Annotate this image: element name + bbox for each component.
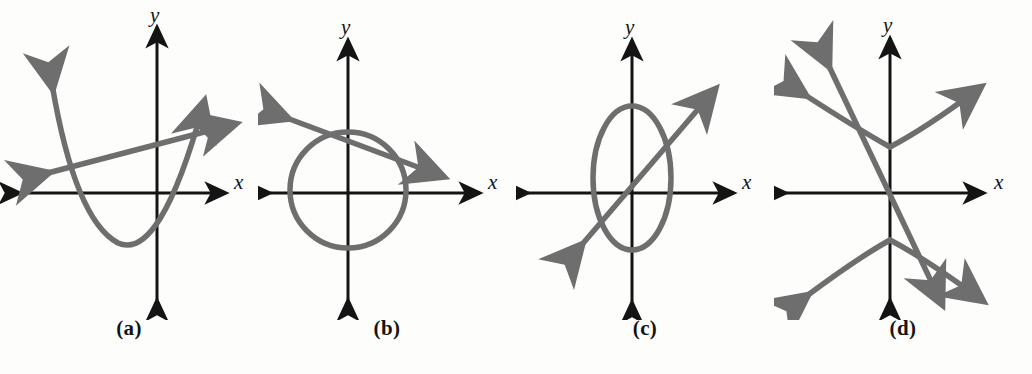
panel-b-graph: x y <box>258 0 516 320</box>
intersecting-line <box>579 93 712 248</box>
panel-caption-c: (c) <box>516 316 774 341</box>
x-axis-label: x <box>233 170 244 194</box>
x-axis-label: x <box>993 170 1004 194</box>
panel-c: x y (c) <box>516 0 774 374</box>
intersecting-line <box>44 125 231 174</box>
y-axis-label: y <box>339 15 351 39</box>
panel-d-graph: x y <box>774 0 1032 320</box>
panel-c-graph: x y <box>516 0 774 320</box>
panel-a: x y (a) <box>0 0 258 374</box>
figure-sheet: x y (a) x y <box>0 0 1032 374</box>
intersecting-line <box>827 62 940 300</box>
x-axis-label: x <box>487 170 498 194</box>
panel-d: x y (d) <box>774 0 1032 374</box>
y-axis-label: y <box>148 3 160 27</box>
y-axis-label: y <box>623 15 635 39</box>
panel-caption-d: (d) <box>774 316 1032 341</box>
panel-caption-a: (a) <box>0 316 258 341</box>
panel-a-graph: x y <box>0 0 258 320</box>
y-axis-label: y <box>881 13 893 37</box>
panel-b: x y (b) <box>258 0 516 374</box>
panel-caption-b: (b) <box>258 316 516 341</box>
x-axis-label: x <box>741 170 752 194</box>
